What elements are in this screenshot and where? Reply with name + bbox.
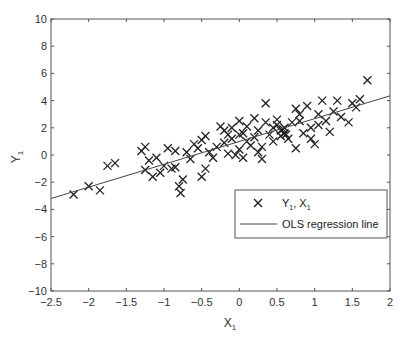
data-point: [322, 117, 330, 125]
data-point: [314, 121, 322, 129]
y-tick-label: −4: [34, 203, 47, 215]
data-point: [239, 154, 247, 162]
y-tick-label: −2: [34, 176, 47, 188]
legend: Y1, X1 OLS regression line: [235, 190, 387, 238]
data-point: [235, 117, 243, 125]
data-point: [235, 146, 243, 154]
data-point: [326, 128, 334, 136]
y-axis-ticks: −10−8−6−4−20246810: [28, 13, 390, 297]
data-point: [209, 154, 217, 162]
data-point: [201, 132, 209, 140]
data-point: [250, 114, 258, 122]
y-axis-label: Y1: [9, 150, 25, 163]
data-point: [363, 76, 371, 84]
x-tick-label: −1: [158, 296, 171, 308]
data-point: [171, 147, 179, 155]
data-point: [296, 110, 304, 118]
data-point: [228, 135, 236, 143]
data-point: [258, 143, 266, 151]
x-tick-label: 0.5: [269, 296, 284, 308]
regression-line: [51, 96, 390, 199]
x-tick-label: 1.5: [345, 296, 360, 308]
axes-frame: [51, 19, 390, 291]
x-tick-label: −1.5: [115, 296, 137, 308]
x-axis-ticks: −2.5−2−1.5−1−0.500.511.52: [40, 19, 393, 308]
axes: [51, 19, 390, 291]
data-point: [232, 151, 240, 159]
x-tick-label: −0.5: [191, 296, 213, 308]
y-tick-label: −6: [34, 231, 47, 243]
data-point: [224, 150, 232, 158]
data-point: [262, 99, 270, 107]
y-tick-label: 10: [35, 13, 47, 25]
scatter-points: [70, 76, 372, 198]
legend-label-line: OLS regression line: [282, 218, 379, 230]
data-point: [141, 143, 149, 151]
data-point: [152, 154, 160, 162]
y-tick-label: 6: [41, 67, 47, 79]
data-point: [345, 118, 353, 126]
data-point: [262, 118, 270, 126]
data-point: [299, 129, 307, 137]
data-point: [149, 173, 157, 181]
data-point: [273, 116, 281, 124]
y-tick-label: −10: [28, 285, 47, 297]
data-point: [104, 162, 112, 170]
data-point: [177, 189, 185, 197]
data-point: [303, 102, 311, 110]
data-point: [96, 186, 104, 194]
x-tick-label: 1: [312, 296, 318, 308]
scatter-chart: −2.5−2−1.5−1−0.500.511.52 −10−8−6−4−2024…: [0, 0, 413, 340]
y-tick-label: −8: [34, 258, 47, 270]
data-point: [307, 135, 315, 143]
data-point: [198, 173, 206, 181]
data-point: [337, 113, 345, 121]
data-point: [356, 95, 364, 103]
x-tick-label: −2.5: [40, 296, 62, 308]
y-tick-label: 2: [41, 122, 47, 134]
y-tick-label: 4: [41, 95, 47, 107]
data-point: [201, 165, 209, 173]
x-tick-label: 2: [387, 296, 393, 308]
data-point: [190, 140, 198, 148]
data-point: [318, 97, 326, 105]
legend-label-data: Y1, X1: [282, 197, 311, 211]
y-tick-label: 0: [41, 149, 47, 161]
x-axis-label: X1: [224, 316, 237, 332]
data-point: [307, 124, 315, 132]
data-point: [311, 140, 319, 148]
x-tick-label: −2: [82, 296, 95, 308]
data-point: [292, 105, 300, 113]
data-point: [111, 159, 119, 167]
data-point: [292, 144, 300, 152]
data-point: [333, 97, 341, 105]
data-point: [145, 156, 153, 164]
x-tick-label: 0: [236, 296, 242, 308]
data-point: [247, 141, 255, 149]
data-point: [164, 144, 172, 152]
legend-box: [235, 190, 387, 238]
y-tick-label: 8: [41, 40, 47, 52]
